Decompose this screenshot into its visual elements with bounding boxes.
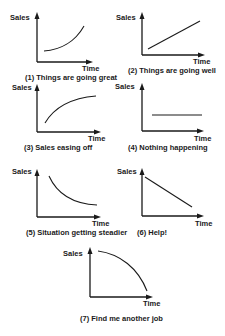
y-axis-label: Sales — [115, 82, 135, 91]
y-axis-label: Sales — [117, 167, 137, 176]
panel-caption: (4) Nothing happening — [128, 143, 208, 152]
panel-4: Sales Time (4) Nothing happening — [115, 82, 211, 152]
x-axis-label: Time — [194, 134, 211, 143]
y-axis-arrow-icon — [35, 169, 40, 176]
panel-5: Sales Time (5) Situation getting steadie… — [12, 167, 127, 237]
x-axis-label: Time — [88, 134, 105, 143]
trend-curve — [49, 176, 97, 205]
panel-6: Sales Time (6) Help! — [117, 167, 212, 237]
trend-curve — [45, 96, 96, 123]
panel-3: Sales Time (3) Sales easing off — [12, 83, 105, 152]
sales-trend-diagram: Sales Time (1) Things are going great Sa… — [0, 0, 225, 336]
x-axis-label: Time — [195, 219, 212, 228]
y-axis-label: Sales — [12, 167, 32, 176]
x-axis-label: Time — [82, 64, 99, 73]
y-axis-label: Sales — [63, 249, 83, 258]
y-axis-label: Sales — [12, 83, 32, 92]
y-axis-label: Sales — [10, 13, 30, 22]
panel-caption: (3) Sales easing off — [24, 143, 93, 152]
y-axis-arrow-icon — [140, 168, 145, 175]
x-axis-arrow-icon — [197, 129, 204, 134]
y-axis-arrow-icon — [140, 83, 145, 90]
y-axis-arrow-icon — [88, 247, 93, 254]
trend-curve — [44, 26, 84, 51]
trend-line — [145, 177, 192, 207]
trend-curve — [98, 251, 147, 291]
panel-1: Sales Time (1) Things are going great — [10, 12, 118, 82]
trend-line — [148, 21, 200, 49]
y-axis-arrow-icon — [35, 12, 40, 19]
x-axis-label: Time — [193, 57, 210, 66]
y-axis-arrow-icon — [35, 84, 40, 91]
y-axis-label: Sales — [116, 13, 136, 22]
panel-2: Sales Time (2) Things are going well — [116, 12, 216, 75]
panel-caption: (5) Situation getting steadier — [26, 228, 127, 237]
panel-7: Sales Time (7) Find me another job — [63, 247, 163, 323]
panel-caption: (6) Help! — [137, 228, 167, 237]
x-axis-label: Time — [92, 219, 109, 228]
panel-caption: (7) Find me another job — [80, 314, 163, 323]
x-axis-arrow-icon — [197, 214, 204, 219]
panel-caption: (2) Things are going well — [128, 66, 216, 75]
panel-caption: (1) Things are going great — [25, 73, 118, 82]
y-axis-arrow-icon — [140, 12, 145, 19]
x-axis-label: Time — [143, 299, 160, 308]
